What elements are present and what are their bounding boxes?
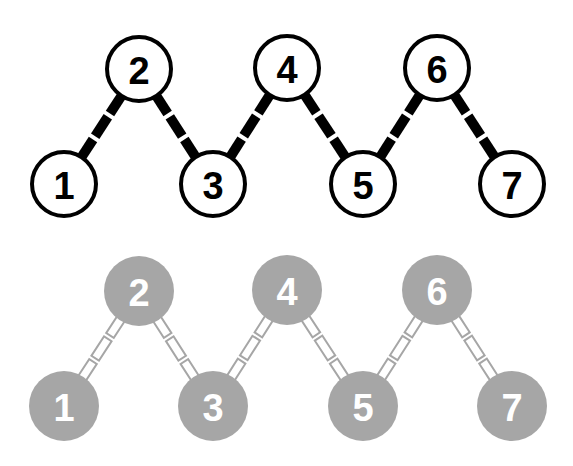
bottom-bond-2-3: [151, 314, 200, 383]
node-label: 1: [53, 387, 74, 429]
top-bond-4-5: [299, 90, 350, 161]
node-label: 6: [426, 271, 447, 313]
bottom-bond-1-2: [77, 314, 127, 384]
bottom-node-3: 3: [178, 371, 248, 441]
zigzag-chain-diagram: 1234567 1234567: [0, 0, 573, 466]
bond-segment: [240, 114, 261, 139]
bottom-node-2: 2: [104, 256, 174, 326]
bond-segment: [464, 113, 485, 138]
bottom-node-6: 6: [402, 255, 472, 325]
bottom-node-1: 1: [29, 371, 99, 441]
node-label: 5: [352, 165, 373, 207]
top-bond-5-6: [375, 91, 425, 162]
top-bond-3-4: [225, 91, 275, 162]
top-node-5: 5: [331, 152, 395, 216]
bond-segment: [91, 114, 112, 139]
bond-segment: [390, 114, 411, 139]
node-label: 1: [53, 165, 74, 207]
bond-segment: [240, 336, 260, 360]
top-node-1: 1: [32, 152, 96, 216]
bottom-bond-6-7: [450, 313, 500, 384]
bond-segment: [390, 336, 410, 360]
bottom-node-7: 7: [477, 371, 547, 441]
node-label: 6: [426, 49, 447, 91]
node-label: 3: [202, 165, 223, 207]
node-label: 7: [501, 387, 522, 429]
bond-segment: [464, 336, 484, 361]
top-node-2: 2: [107, 37, 171, 101]
node-label: 5: [352, 387, 373, 429]
bond-segment: [166, 336, 186, 360]
top-node-7: 7: [480, 152, 544, 216]
node-label: 2: [128, 50, 149, 92]
bond-segment: [315, 336, 335, 361]
bottom-node-5: 5: [328, 371, 398, 441]
node-label: 2: [128, 272, 149, 314]
bond-segment: [314, 113, 335, 138]
bottom-bond-3-4: [225, 313, 274, 383]
node-label: 4: [276, 271, 297, 313]
node-label: 4: [276, 49, 297, 91]
top-node-6: 6: [405, 36, 469, 100]
node-label: 7: [501, 165, 522, 207]
top-bond-6-7: [449, 90, 500, 161]
bottom-bond-4-5: [300, 313, 351, 384]
top-chain-nodes: 1234567: [32, 36, 544, 216]
bond-segment: [166, 114, 187, 139]
node-label: 3: [202, 387, 223, 429]
top-node-4: 4: [255, 36, 319, 100]
top-bond-2-3: [151, 92, 201, 162]
bottom-bond-5-6: [375, 313, 424, 383]
bond-segment: [91, 336, 111, 360]
top-node-3: 3: [181, 152, 245, 216]
top-bond-1-2: [76, 91, 127, 161]
bottom-node-4: 4: [252, 255, 322, 325]
